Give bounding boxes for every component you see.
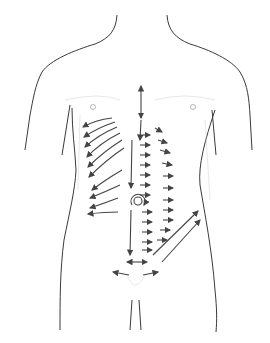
right-iliac-diagonal — [153, 211, 200, 262]
torso-drawing — [0, 0, 270, 343]
left-ribcage-fan — [83, 118, 124, 214]
arrows — [83, 86, 200, 275]
center-down-arrow-2 — [130, 210, 131, 255]
right-abdomen-columns — [140, 128, 173, 250]
torso-illustration: Abdominal massage stroke directions on a… — [0, 0, 270, 343]
umbilicus-circle — [131, 194, 145, 205]
body-outline — [25, 15, 252, 332]
center-down-arrow-1 — [131, 140, 132, 188]
nipple-marks — [91, 105, 196, 110]
